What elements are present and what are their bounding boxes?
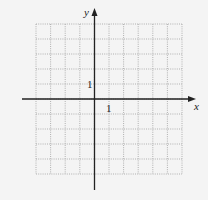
y-axis-arrow-icon xyxy=(92,8,98,16)
x-axis-label: x xyxy=(193,100,199,112)
coordinate-plane: y x 1 1 xyxy=(0,0,208,200)
y-tick-label: 1 xyxy=(87,78,93,90)
x-tick-label: 1 xyxy=(106,102,112,114)
y-axis-label: y xyxy=(83,6,89,18)
